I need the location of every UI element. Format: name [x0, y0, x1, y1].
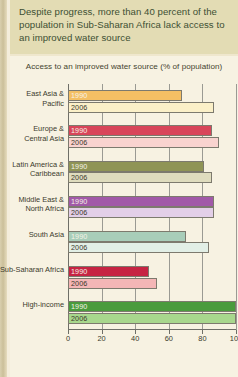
bar-group: Middle East &North Africa19902006: [68, 189, 236, 224]
bar-1990: 1990: [68, 125, 212, 136]
bar-1990: 1990: [68, 161, 204, 172]
bar-series-label: 1990: [69, 302, 87, 311]
category-label: Latin America &Caribbean: [12, 160, 64, 179]
bar-group: East Asia &Pacific19902006: [68, 84, 236, 119]
category-label: High-income: [23, 300, 65, 309]
chart-title: Access to an improved water source (% of…: [10, 62, 238, 71]
bar-2006: 2006: [68, 313, 236, 324]
gridline-100: [236, 84, 237, 330]
bar-2006: 2006: [68, 207, 214, 218]
category-label: East Asia &Pacific: [26, 89, 64, 108]
bar-series-label: 1990: [69, 126, 87, 135]
x-tick-label: 100: [230, 334, 238, 343]
x-tick-label: 40: [131, 334, 139, 343]
bar-series-label: 2006: [69, 103, 87, 112]
bar-group: High-income19902006: [68, 295, 236, 330]
bar-series-label: 1990: [69, 267, 87, 276]
bar-series-label: 1990: [69, 197, 87, 206]
bar-groups: East Asia &Pacific19902006Europe &Centra…: [68, 84, 236, 330]
chart-panel: Access to an improved water source (% of…: [10, 56, 238, 377]
bar-group: Sub-Saharan Africa19902006: [68, 260, 236, 295]
x-tick-label: 60: [165, 334, 173, 343]
callout-text: Despite progress, more than 40 percent o…: [19, 5, 229, 45]
bar-series-label: 1990: [69, 232, 87, 241]
bar-1990: 1990: [68, 196, 214, 207]
category-label: Middle East &North Africa: [18, 195, 64, 214]
x-tick-label: 0: [66, 334, 70, 343]
bar-series-label: 2006: [69, 208, 87, 217]
x-tick-label: 80: [198, 334, 206, 343]
bar-series-label: 1990: [69, 91, 87, 100]
callout-banner: Despite progress, more than 40 percent o…: [10, 0, 238, 54]
bar-2006: 2006: [68, 172, 212, 183]
bar-series-label: 2006: [69, 138, 87, 147]
bar-series-label: 2006: [69, 173, 87, 182]
bar-2006: 2006: [68, 242, 209, 253]
category-label: Sub-Saharan Africa: [0, 265, 64, 274]
bar-group: Latin America &Caribbean19902006: [68, 154, 236, 189]
bar-group: South Asia19902006: [68, 225, 236, 260]
bar-1990: 1990: [68, 231, 186, 242]
bar-2006: 2006: [68, 102, 214, 113]
bar-series-label: 2006: [69, 243, 87, 252]
plot-area: East Asia &Pacific19902006Europe &Centra…: [68, 84, 236, 356]
category-label: South Asia: [29, 230, 64, 239]
x-tick-label: 20: [97, 334, 105, 343]
bar-1990: 1990: [68, 301, 236, 312]
bar-group: Europe &Central Asia19902006: [68, 119, 236, 154]
category-label: Europe &Central Asia: [24, 124, 64, 143]
bar-1990: 1990: [68, 266, 149, 277]
x-axis-line: [68, 329, 236, 330]
page-edge-decoration: [0, 0, 7, 377]
bar-1990: 1990: [68, 90, 182, 101]
bar-series-label: 1990: [69, 162, 87, 171]
bar-2006: 2006: [68, 278, 157, 289]
x-axis-tick-labels: 020406080100: [68, 334, 236, 348]
bar-series-label: 2006: [69, 279, 87, 288]
bar-2006: 2006: [68, 137, 219, 148]
bar-series-label: 2006: [69, 314, 87, 323]
